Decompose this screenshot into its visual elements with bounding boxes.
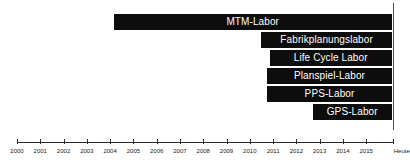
x-axis-tick: [40, 139, 41, 144]
x-axis-tick-label: 2008: [197, 147, 210, 155]
x-axis-tick: [180, 139, 181, 144]
x-axis-tick: [203, 139, 204, 144]
gantt-bar-pps-labor[interactable]: PPS-Labor: [267, 86, 392, 102]
x-axis-tick-label: 2006: [150, 147, 163, 155]
x-axis-tick-label: 2002: [57, 147, 70, 155]
x-axis-tick-label: 2014: [336, 147, 349, 155]
gantt-bar-fabrikplanungslabor[interactable]: Fabrikplanungslabor: [261, 32, 391, 48]
gantt-bar-label: Planspiel-Labor: [289, 71, 370, 81]
gantt-chart: MTM-Labor Fabrikplanungslabor Life Cycle…: [0, 0, 410, 164]
x-axis-tick: [366, 139, 367, 144]
x-axis-tick-label: 2012: [290, 147, 303, 155]
x-axis-tick-label: 2010: [243, 147, 256, 155]
x-axis-tick: [157, 139, 158, 144]
gantt-bar-planspiel-labor[interactable]: Planspiel-Labor: [267, 68, 392, 84]
chart-plot-area: MTM-Labor Fabrikplanungslabor Life Cycle…: [0, 0, 410, 136]
gantt-bar-label: PPS-Labor: [300, 89, 360, 99]
x-axis-tick-today: [393, 139, 394, 144]
gantt-bar-mtm-labor[interactable]: MTM-Labor: [114, 14, 392, 30]
gantt-bar-label: GPS-Labor: [322, 107, 383, 117]
x-axis-tick: [296, 139, 297, 144]
gantt-bar-gps-labor[interactable]: GPS-Labor: [313, 104, 392, 120]
x-axis-tick-label: 2005: [127, 147, 140, 155]
x-axis-tick-label: 2003: [80, 147, 93, 155]
x-axis-tick: [17, 139, 18, 144]
x-axis-tick: [343, 139, 344, 144]
x-axis-tick-label: 2004: [103, 147, 116, 155]
gantt-bar-label: Life Cycle Labor: [289, 53, 373, 63]
x-axis-tick: [273, 139, 274, 144]
x-axis-tick: [133, 139, 134, 144]
x-axis-tick-label: 2000: [10, 147, 23, 155]
gantt-bar-label: MTM-Labor: [221, 17, 284, 27]
x-axis-tick: [320, 139, 321, 144]
x-axis-tick: [250, 139, 251, 144]
x-axis-tick-label: 2013: [313, 147, 326, 155]
gantt-bar-life-cycle-labor[interactable]: Life Cycle Labor: [270, 50, 392, 66]
x-axis-tick-label: 2011: [267, 147, 280, 155]
today-marker-line: [393, 3, 394, 130]
gantt-bar-label: Fabrikplanungslabor: [275, 35, 378, 45]
x-axis-tick-label: 2009: [220, 147, 233, 155]
x-axis-today-label: Heute: [394, 147, 410, 155]
x-axis-line: [17, 142, 393, 143]
x-axis-tick: [64, 139, 65, 144]
x-axis-tick-label: 2015: [360, 147, 373, 155]
x-axis-tick: [227, 139, 228, 144]
x-axis-tick: [110, 139, 111, 144]
x-axis: 2000200120022003200420052006200720082009…: [0, 136, 410, 164]
x-axis-tick-label: 2007: [173, 147, 186, 155]
x-axis-tick: [87, 139, 88, 144]
x-axis-tick-label: 2001: [34, 147, 47, 155]
